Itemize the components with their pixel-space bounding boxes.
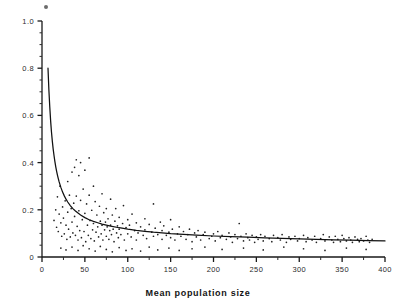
scatter-point	[237, 238, 239, 240]
scatter-point	[101, 193, 103, 195]
scatter-point	[196, 236, 198, 238]
scatter-point	[72, 232, 74, 234]
scatter-point	[369, 242, 371, 244]
scatter-points-group	[53, 157, 373, 253]
y-axis-title: Alternative fertility proportion	[4, 250, 18, 308]
plot-canvas	[0, 0, 396, 308]
scatter-point	[153, 203, 155, 205]
x-tick-label: 250	[250, 265, 264, 274]
scatter-point	[74, 216, 76, 218]
x-axis-title: Mean population size	[0, 288, 396, 298]
scatter-point	[69, 194, 71, 196]
scatter-point	[245, 233, 247, 235]
scatter-point	[65, 249, 67, 251]
scatter-point	[168, 231, 170, 233]
scatter-point	[226, 238, 228, 240]
scatter-point	[86, 203, 88, 205]
scatter-point	[53, 220, 55, 222]
x-tick-label: 150	[164, 265, 178, 274]
scatter-point	[94, 250, 96, 252]
scatter-point	[161, 230, 163, 232]
scatter-point	[144, 218, 146, 220]
scatter-point	[99, 246, 101, 248]
scatter-point	[294, 235, 296, 237]
scatter-point	[114, 220, 116, 222]
scatter-point	[305, 241, 307, 243]
scatter-point	[185, 238, 187, 240]
scatter-point	[228, 232, 230, 234]
scatter-point	[238, 223, 240, 225]
scatter-point	[142, 234, 144, 236]
scatter-point	[273, 234, 275, 236]
scatter-point	[63, 233, 65, 235]
scatter-point	[113, 241, 115, 243]
scatter-point	[144, 229, 146, 231]
scatter-point	[104, 229, 106, 231]
scatter-point	[334, 235, 336, 237]
scatter-point	[262, 249, 264, 251]
scatter-point	[171, 228, 173, 230]
scatter-point	[62, 206, 64, 208]
scatter-point	[264, 235, 266, 237]
scatter-point	[183, 231, 185, 233]
scatter-point	[174, 239, 176, 241]
scatter-point	[297, 240, 299, 242]
scatter-point	[77, 239, 79, 241]
scatter-point	[105, 249, 107, 251]
scatter-point	[303, 234, 305, 236]
scatter-point	[80, 200, 82, 202]
scatter-point	[371, 238, 373, 240]
scatter-point	[102, 239, 104, 241]
scatter-point	[100, 233, 102, 235]
scatter-point	[66, 238, 68, 240]
scatter-point	[68, 228, 70, 230]
scatter-point	[262, 240, 264, 242]
scatter-point	[140, 250, 142, 252]
scatter-point	[117, 225, 119, 227]
scatter-point	[93, 240, 95, 242]
scatter-point	[271, 241, 273, 243]
scatter-point	[87, 224, 89, 226]
scatter-point	[118, 228, 120, 230]
x-tick-label: 50	[80, 265, 89, 274]
scatter-point	[99, 205, 101, 207]
scatter-point	[79, 230, 81, 232]
scatter-point	[204, 246, 206, 248]
scatter-point	[127, 219, 129, 221]
scatter-point	[96, 214, 98, 216]
scatter-point	[194, 232, 196, 234]
scatter-point	[346, 247, 348, 249]
x-tick-label: 200	[207, 265, 221, 274]
scatter-point	[71, 246, 73, 248]
scatter-point	[120, 234, 122, 236]
scatter-point	[146, 238, 148, 240]
scatter-point	[204, 231, 206, 233]
scatter-point	[161, 238, 163, 240]
scatter-point	[87, 234, 89, 236]
scatter-point	[191, 241, 193, 243]
scatter-point	[98, 236, 100, 238]
scatter-point	[97, 226, 99, 228]
scatter-point	[60, 247, 62, 249]
scatter-point	[131, 213, 133, 215]
scatter-point	[77, 250, 79, 252]
x-tick-label: 0	[40, 265, 45, 274]
scatter-point	[85, 241, 87, 243]
scatter-point	[140, 226, 142, 228]
scatter-point	[111, 234, 113, 236]
scatter-point	[84, 169, 86, 171]
scatter-point	[157, 234, 159, 236]
scatter-point	[118, 247, 120, 249]
scatter-point	[73, 202, 75, 204]
scatter-point	[105, 208, 107, 210]
scatter-point	[243, 240, 245, 242]
scatter-point	[157, 249, 159, 251]
scatter-point	[95, 231, 97, 233]
scatter-point	[178, 250, 180, 252]
scatter-point	[178, 226, 180, 228]
scatter-point	[341, 234, 343, 236]
scatter-point	[103, 212, 105, 214]
scatter-point	[286, 242, 288, 244]
scatter-point	[64, 200, 66, 202]
scatter-point	[280, 239, 282, 241]
